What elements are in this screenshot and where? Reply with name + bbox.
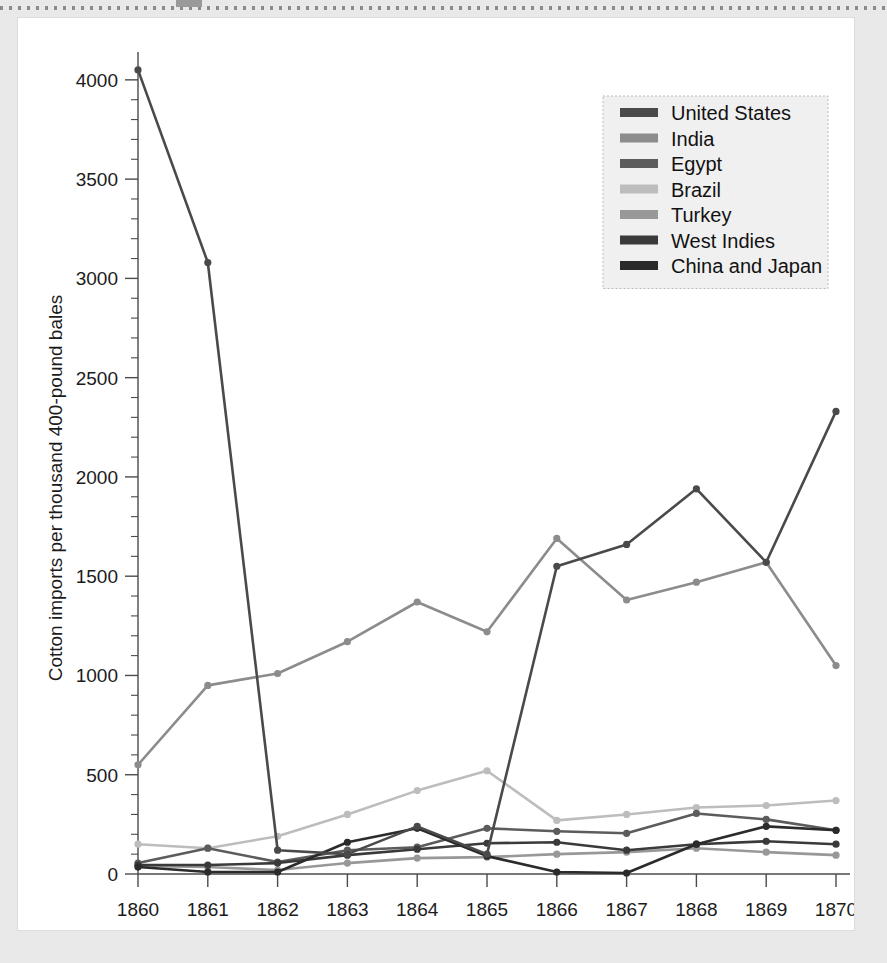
data-point (553, 868, 560, 875)
data-point (344, 859, 351, 866)
legend-swatch (620, 210, 658, 219)
data-point (344, 839, 351, 846)
data-point (414, 598, 421, 605)
data-point (763, 823, 770, 830)
legend-item-label: China and Japan (671, 255, 822, 277)
data-point (623, 596, 630, 603)
data-point (623, 811, 630, 818)
x-axis-tick-label: 1861 (187, 899, 229, 920)
x-axis-tick-label: 1862 (256, 899, 298, 920)
data-point (763, 559, 770, 566)
data-point (134, 761, 141, 768)
data-point (623, 847, 630, 854)
data-point (274, 670, 281, 677)
data-point (832, 827, 839, 834)
chart-legend[interactable]: United StatesIndiaEgyptBrazilTurkeyWest … (603, 96, 828, 289)
data-point (414, 846, 421, 853)
data-point (553, 851, 560, 858)
data-point (832, 841, 839, 848)
data-point (832, 852, 839, 859)
legend-swatch (620, 236, 658, 245)
top-dotted-rule (0, 6, 887, 10)
data-point (204, 259, 211, 266)
data-point (832, 408, 839, 415)
data-point (134, 66, 141, 73)
data-point (483, 825, 490, 832)
legend-swatch (620, 134, 658, 143)
legend-item-label: Brazil (671, 179, 721, 201)
x-axis-tick-label: 1868 (675, 899, 717, 920)
page-root: 05001000150020002500300035004000 1860186… (0, 0, 887, 963)
data-point (274, 868, 281, 875)
data-point (623, 869, 630, 876)
x-axis-tick-label: 1860 (117, 899, 159, 920)
data-point (274, 847, 281, 854)
data-point (204, 845, 211, 852)
legend-item-label: Turkey (671, 204, 731, 226)
data-point (832, 797, 839, 804)
y-axis-tick-label: 3500 (76, 169, 118, 190)
data-point (553, 563, 560, 570)
data-point (763, 838, 770, 845)
data-point (693, 485, 700, 492)
data-point (414, 787, 421, 794)
y-axis-tick-label: 4000 (76, 70, 118, 91)
x-axis-tick-label: 1869 (745, 899, 787, 920)
data-point (623, 541, 630, 548)
data-point (414, 823, 421, 830)
data-point (483, 628, 490, 635)
x-axis-tick-label: 1870 (815, 899, 854, 920)
y-axis-tick-label: 3000 (76, 268, 118, 289)
x-axis-tick-label: 1863 (326, 899, 368, 920)
data-point (483, 767, 490, 774)
x-axis-tick-label: 1865 (466, 899, 508, 920)
line-chart: 05001000150020002500300035004000 1860186… (18, 18, 854, 930)
legend-swatch (620, 108, 658, 117)
data-point (134, 863, 141, 870)
legend-swatch (620, 261, 658, 270)
y-axis-title: Cotton imports per thousand 400-pound ba… (45, 295, 66, 682)
x-axis-tick-label: 1864 (396, 899, 439, 920)
legend-item-label: West Indies (671, 230, 775, 252)
legend-item-label: United States (671, 102, 791, 124)
data-point (553, 535, 560, 542)
data-point (693, 810, 700, 817)
legend-item-label: India (671, 128, 715, 150)
data-point (204, 682, 211, 689)
y-axis-tick-label: 2000 (76, 467, 118, 488)
data-point (693, 841, 700, 848)
data-point (623, 830, 630, 837)
data-point (344, 638, 351, 645)
data-point (763, 816, 770, 823)
data-point (763, 802, 770, 809)
top-tab-marker (176, 0, 202, 7)
data-point (693, 579, 700, 586)
legend-item-label: Egypt (671, 153, 723, 175)
data-point (763, 849, 770, 856)
data-point (414, 855, 421, 862)
data-point (344, 811, 351, 818)
y-axis-tick-label: 1000 (76, 665, 118, 686)
legend-swatch (620, 185, 658, 194)
data-point (344, 851, 351, 858)
y-axis-tick-label: 1500 (76, 566, 118, 587)
data-point (204, 868, 211, 875)
data-point (553, 817, 560, 824)
data-point (553, 839, 560, 846)
y-axis-tick-label: 500 (86, 765, 118, 786)
data-point (204, 861, 211, 868)
y-axis-tick-label: 0 (107, 864, 118, 885)
x-axis-tick-label: 1866 (536, 899, 578, 920)
data-point (274, 859, 281, 866)
data-point (553, 828, 560, 835)
data-point (483, 851, 490, 858)
data-point (134, 841, 141, 848)
y-axis-tick-label: 2500 (76, 368, 118, 389)
data-point (832, 662, 839, 669)
legend-swatch (620, 159, 658, 168)
figure-card: 05001000150020002500300035004000 1860186… (18, 18, 854, 930)
x-axis-tick-label: 1867 (605, 899, 647, 920)
